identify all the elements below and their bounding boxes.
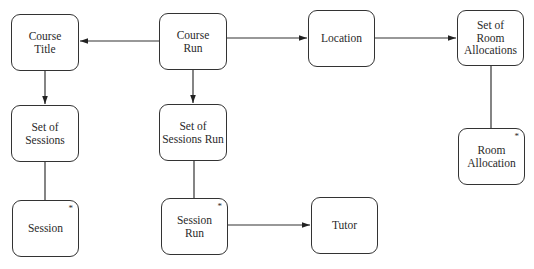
entity-label: Course Run: [177, 29, 210, 54]
entity-course-title[interactable]: Course Title: [11, 14, 79, 71]
multiplicity-star-icon: *: [515, 132, 520, 141]
entity-label: Session Run: [177, 214, 212, 239]
entity-session-run[interactable]: * Session Run: [161, 198, 228, 255]
entity-label: Tutor: [332, 219, 357, 232]
entity-session[interactable]: * Session: [12, 200, 79, 257]
connector-layer: [0, 0, 534, 269]
entity-label: Set of Sessions Run: [162, 120, 224, 145]
entity-label: Session: [28, 222, 63, 235]
entity-label: Location: [321, 32, 362, 45]
entity-room-allocation[interactable]: * Room Allocation: [458, 128, 525, 185]
entity-set-of-sessions-run[interactable]: Set of Sessions Run: [159, 104, 227, 161]
entity-label: Set of Sessions: [25, 121, 65, 146]
entity-label: Set of Room Allocations: [464, 19, 517, 57]
multiplicity-star-icon: *: [218, 202, 223, 211]
entity-set-of-room-allocations[interactable]: Set of Room Allocations: [457, 10, 524, 66]
entity-tutor[interactable]: Tutor: [311, 197, 378, 254]
entity-label: Room Allocation: [467, 144, 516, 169]
multiplicity-star-icon: *: [69, 204, 74, 213]
entity-course-run[interactable]: Course Run: [159, 13, 227, 70]
entity-set-of-sessions[interactable]: Set of Sessions: [11, 105, 79, 162]
entity-label: Course Title: [29, 30, 62, 55]
entity-location[interactable]: Location: [308, 10, 375, 67]
